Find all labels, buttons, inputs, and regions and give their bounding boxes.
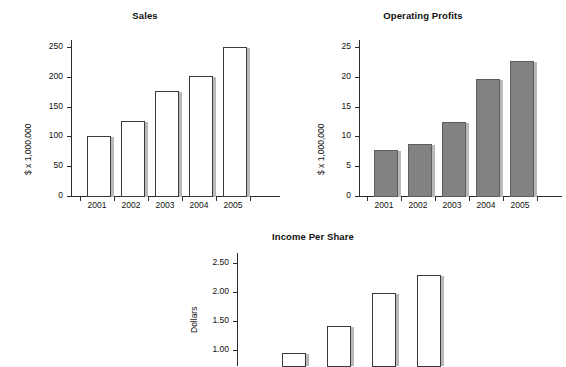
chart-panel-income-per-share: Income Per Share 2.50 2.00 1.50 1.00 Dol… bbox=[0, 220, 566, 366]
bar-sales-2002 bbox=[121, 121, 145, 197]
y-axis-line-income-per-share bbox=[237, 253, 238, 366]
y-tick-sales bbox=[67, 196, 71, 197]
y-tick-operating-profits bbox=[355, 166, 359, 167]
y-tick-label-sales: 200 bbox=[30, 72, 63, 81]
bar-operating-profits-2002 bbox=[408, 144, 432, 197]
y-tick-label-income-per-share: 2.50 bbox=[196, 258, 229, 267]
y-tick-label-operating-profits: 15 bbox=[323, 102, 351, 111]
bar-income-per-share-2001 bbox=[282, 353, 306, 367]
y-axis-line-sales bbox=[71, 40, 72, 197]
y-tick-income-per-share bbox=[233, 350, 237, 351]
y-axis-line-operating-profits bbox=[359, 40, 360, 197]
bar-sales-2005 bbox=[223, 47, 247, 197]
y-tick-label-income-per-share: 1.50 bbox=[196, 316, 229, 325]
chart-panel-sales: Sales 250 200 150 100 50 0 $ x 1,000,000 bbox=[0, 0, 290, 220]
bar-operating-profits-2005 bbox=[510, 61, 534, 197]
y-tick-label-operating-profits: 10 bbox=[323, 131, 351, 140]
plot-area-sales: 250 200 150 100 50 0 $ x 1,000,000 bbox=[0, 0, 290, 220]
chart-panel-operating-profits: Operating Profits 25 20 15 10 5 0 $ x 1,… bbox=[290, 0, 566, 220]
y-tick-label-income-per-share: 2.00 bbox=[196, 287, 229, 296]
y-tick-operating-profits bbox=[355, 136, 359, 137]
bar-operating-profits-2004 bbox=[476, 79, 500, 197]
y-tick-sales bbox=[67, 136, 71, 137]
y-tick-sales bbox=[67, 107, 71, 108]
y-tick-income-per-share bbox=[233, 292, 237, 293]
y-tick-label-sales: 100 bbox=[30, 131, 63, 140]
y-tick-label-sales: 0 bbox=[30, 191, 63, 200]
y-tick-operating-profits bbox=[355, 47, 359, 48]
y-tick-income-per-share bbox=[233, 321, 237, 322]
y-tick-sales bbox=[67, 47, 71, 48]
y-tick-operating-profits bbox=[355, 196, 359, 197]
x-tick-label-sales: 2005 bbox=[213, 201, 253, 210]
y-tick-label-operating-profits: 20 bbox=[323, 72, 351, 81]
bar-sales-2004 bbox=[189, 76, 213, 197]
y-axis-title-sales: $ x 1,000,000 bbox=[24, 123, 33, 175]
y-tick-income-per-share bbox=[233, 263, 237, 264]
bar-income-per-share-2002 bbox=[327, 326, 351, 367]
bar-income-per-share-2003 bbox=[372, 293, 396, 367]
y-tick-label-sales: 250 bbox=[30, 42, 63, 51]
y-tick-operating-profits bbox=[355, 77, 359, 78]
y-tick-operating-profits bbox=[355, 107, 359, 108]
plot-area-income-per-share: 2.50 2.00 1.50 1.00 Dollars bbox=[0, 220, 566, 366]
bar-operating-profits-2001 bbox=[374, 150, 398, 197]
bar-sales-2003 bbox=[155, 91, 179, 197]
y-tick-sales bbox=[67, 166, 71, 167]
y-tick-sales bbox=[67, 77, 71, 78]
y-tick-label-sales: 150 bbox=[30, 102, 63, 111]
y-axis-title-income-per-share: Dollars bbox=[190, 307, 199, 333]
bar-income-per-share-2004 bbox=[417, 275, 441, 367]
bar-sales-2001 bbox=[87, 136, 111, 197]
plot-area-operating-profits: 25 20 15 10 5 0 $ x 1,000,000 2001 bbox=[290, 0, 566, 220]
y-tick-label-operating-profits: 5 bbox=[323, 161, 351, 170]
y-tick-label-operating-profits: 0 bbox=[323, 191, 351, 200]
x-tick-label-operating-profits: 2005 bbox=[500, 201, 540, 210]
y-axis-title-operating-profits: $ x 1,000,000 bbox=[317, 123, 326, 175]
bar-operating-profits-2003 bbox=[442, 122, 466, 197]
y-tick-label-income-per-share: 1.00 bbox=[196, 345, 229, 354]
y-tick-label-sales: 50 bbox=[30, 161, 63, 170]
y-tick-label-operating-profits: 25 bbox=[323, 42, 351, 51]
